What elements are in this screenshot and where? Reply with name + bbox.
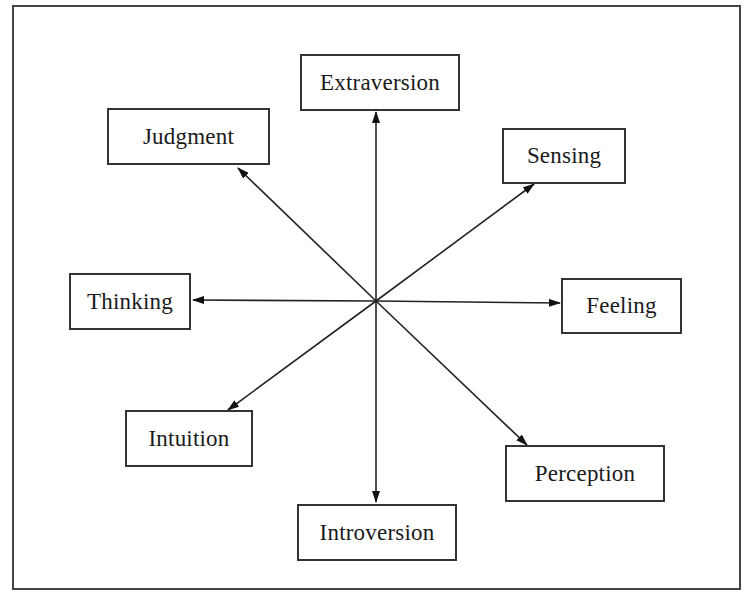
- node-feeling: Feeling: [561, 278, 682, 334]
- node-label: Judgment: [143, 124, 234, 150]
- arrow-to-sensing: [376, 184, 534, 301]
- node-extraversion: Extraversion: [300, 54, 460, 111]
- node-label: Introversion: [320, 520, 435, 546]
- arrow-to-judgment: [238, 168, 376, 301]
- node-label: Perception: [535, 461, 635, 487]
- arrow-to-intuition: [228, 301, 376, 410]
- node-intuition: Intuition: [125, 410, 253, 467]
- node-label: Intuition: [148, 426, 229, 452]
- node-label: Thinking: [87, 289, 173, 315]
- arrow-to-perception: [376, 301, 527, 445]
- node-judgment: Judgment: [107, 108, 270, 165]
- node-thinking: Thinking: [69, 273, 191, 330]
- arrow-to-feeling: [376, 301, 560, 303]
- node-introversion: Introversion: [297, 504, 457, 561]
- node-label: Feeling: [586, 293, 656, 319]
- node-sensing: Sensing: [502, 128, 626, 184]
- node-perception: Perception: [505, 445, 665, 502]
- arrow-to-thinking: [193, 300, 376, 301]
- node-label: Sensing: [527, 143, 601, 169]
- node-label: Extraversion: [320, 70, 440, 96]
